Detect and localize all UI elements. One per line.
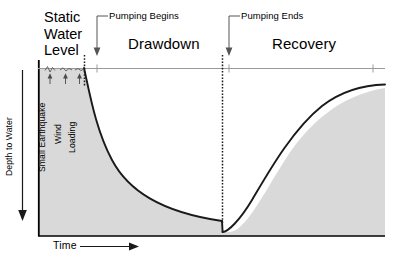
y-axis-title: Depth to Water	[4, 117, 14, 176]
time-axis-arrowhead	[129, 242, 139, 250]
pumping-ends-label: Pumping Ends	[241, 11, 303, 21]
depth-axis-arrowhead	[18, 210, 27, 221]
pumping-ends-arrowhead	[226, 48, 233, 57]
pumping-begins-arrowhead	[94, 48, 101, 57]
static-water-level-line2: Water	[44, 26, 82, 43]
pumping-begins-label: Pumping Begins	[109, 11, 179, 21]
pumping-begins-leader	[97, 16, 108, 48]
perturbation-label-small-earthquake: Small Earthquake	[37, 103, 47, 172]
hydrograph-figure: Static Water Level Pumping Begins Pumpin…	[0, 0, 406, 259]
x-axis-title: Time	[53, 240, 77, 251]
section-title-recovery: Recovery	[272, 36, 336, 52]
static-water-level-label: Static Water Level	[44, 9, 82, 59]
pumping-ends-leader	[229, 16, 240, 48]
perturbation-label-loading: Loading	[67, 122, 77, 153]
section-title-drawdown: Drawdown	[128, 36, 200, 52]
static-water-level-line3: Level	[44, 42, 82, 59]
static-water-level-line1: Static	[44, 9, 82, 26]
perturbation-label-wind: Wind	[53, 124, 63, 144]
